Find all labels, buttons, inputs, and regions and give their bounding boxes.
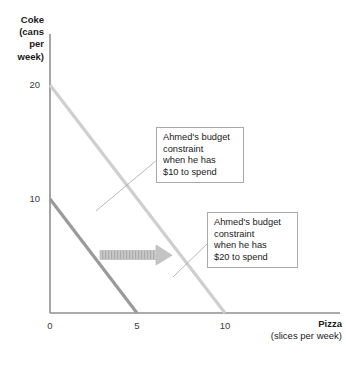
x-tick-label-5: 5 xyxy=(126,320,148,331)
callout-10-leader-line xyxy=(96,160,157,211)
x-axis-title-main: Pizza xyxy=(236,318,342,330)
x-tick-label-10: 10 xyxy=(214,320,236,331)
chart-plot-area xyxy=(0,0,346,368)
callout-budget-20: Ahmed's budget constraint when he has $2… xyxy=(207,212,298,268)
x-axis-title: Pizza (slices per week) xyxy=(236,318,342,342)
y-tick-label-10: 10 xyxy=(14,193,40,204)
budget-constraint-chart: Coke (cans per week) Pizza (slices per w… xyxy=(0,0,346,368)
y-axis-title: Coke (cans per week) xyxy=(6,14,44,63)
callout-budget-10: Ahmed's budget constraint when he has $1… xyxy=(156,127,244,183)
shift-arrow-icon xyxy=(100,245,172,265)
y-tick-label-20: 20 xyxy=(14,79,40,90)
budget-line-20 xyxy=(50,85,225,313)
x-axis-title-sub: (slices per week) xyxy=(236,330,342,342)
callout-20-leader-line xyxy=(173,243,208,277)
x-tick-label-0: 0 xyxy=(39,320,61,331)
